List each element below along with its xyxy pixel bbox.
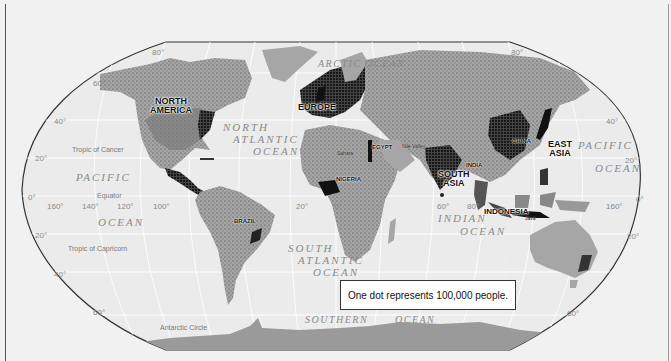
label-east-asia: EAST ASIA bbox=[548, 140, 572, 158]
label-java: Java bbox=[525, 216, 536, 221]
lat-label-60s-west: 60° bbox=[93, 309, 105, 317]
lat-label-0-east: 0° bbox=[636, 196, 644, 204]
label-south-atlantic-1: SOUTH bbox=[288, 243, 333, 254]
label-china: CHINA bbox=[512, 138, 531, 144]
label-antarctic-circle: Antarctic Circle bbox=[160, 324, 207, 331]
label-north-atlantic-1: NORTH bbox=[223, 122, 269, 133]
label-equator: Equator bbox=[97, 192, 122, 199]
lat-label-40-west: 40° bbox=[54, 118, 66, 126]
label-indian-ocean-2: OCEAN bbox=[460, 226, 506, 237]
label-southern-ocean-1: SOUTHERN bbox=[305, 315, 368, 325]
lat-label-40s-west: 40° bbox=[54, 271, 66, 279]
label-arctic-ocean-1: ARCTIC bbox=[318, 59, 361, 69]
lon-label-60e: 60° bbox=[437, 203, 449, 211]
lat-label-20n-east: 20° bbox=[625, 157, 637, 165]
label-sahara: Sahara bbox=[337, 151, 353, 156]
legend-box: One dot represents 100,000 people. bbox=[340, 280, 516, 310]
lat-label-80-west: 80° bbox=[152, 49, 164, 57]
lat-label-60s-east: 60° bbox=[567, 310, 579, 318]
label-nile-valley: Nile Valley bbox=[402, 144, 425, 149]
lon-label-120w: 120° bbox=[117, 203, 134, 211]
lon-label-20w: 20° bbox=[296, 203, 308, 211]
lat-label-20s-west: 20° bbox=[35, 232, 47, 240]
lon-label-0: 0° bbox=[334, 203, 342, 211]
label-egypt: EGYPT bbox=[372, 144, 392, 150]
label-tropic-of-cancer: Tropic of Cancer bbox=[72, 146, 123, 153]
lon-label-160e: 160° bbox=[606, 203, 623, 211]
label-north-atlantic-3: OCEAN bbox=[253, 146, 299, 157]
label-arctic-ocean-2: OCEAN bbox=[365, 59, 405, 69]
lon-label-80e: 80° bbox=[467, 203, 479, 211]
label-brazil: BRAZIL bbox=[234, 218, 256, 224]
label-tropic-of-capricorn: Tropic of Capricorn bbox=[68, 245, 127, 252]
lat-label-20s-east: 20° bbox=[627, 233, 639, 241]
label-south-atlantic-3: OCEAN bbox=[313, 267, 359, 278]
lon-label-160w: 160° bbox=[47, 203, 64, 211]
label-indonesia: INDONESIA bbox=[484, 208, 528, 216]
label-north-atlantic-2: ATLANTIC bbox=[233, 134, 299, 145]
label-india: INDIA bbox=[466, 162, 482, 168]
label-southern-ocean-2: OCEAN bbox=[395, 315, 435, 325]
label-pacific-west-2: OCEAN bbox=[98, 217, 144, 228]
label-pacific-east-1: PACIFIC bbox=[578, 140, 633, 151]
label-pacific-west-1: PACIFIC bbox=[76, 172, 131, 183]
label-north-america: NORTH AMERICA bbox=[150, 97, 192, 115]
lat-label-60-west: 60° bbox=[93, 80, 105, 88]
label-europe: EUROPE bbox=[298, 103, 336, 112]
lon-label-140w: 140° bbox=[82, 203, 99, 211]
lon-label-100w: 100° bbox=[153, 203, 170, 211]
lat-label-40-east: 40° bbox=[606, 118, 618, 126]
label-south-atlantic-2: ATLANTIC bbox=[298, 255, 364, 266]
label-south-asia: SOUTH ASIA bbox=[438, 170, 470, 188]
label-indian-ocean-1: INDIAN bbox=[438, 213, 487, 224]
lat-label-20n-west: 20° bbox=[35, 155, 47, 163]
lat-label-0-west: 0° bbox=[28, 194, 36, 202]
legend-text: One dot represents 100,000 people. bbox=[348, 290, 508, 301]
lat-label-80-east: 80° bbox=[511, 49, 523, 57]
label-nigeria: NIGERIA bbox=[336, 176, 361, 182]
